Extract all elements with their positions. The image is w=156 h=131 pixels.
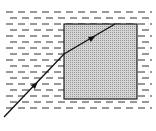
- glass-block: [64, 24, 137, 99]
- refraction-diagram: [0, 0, 156, 131]
